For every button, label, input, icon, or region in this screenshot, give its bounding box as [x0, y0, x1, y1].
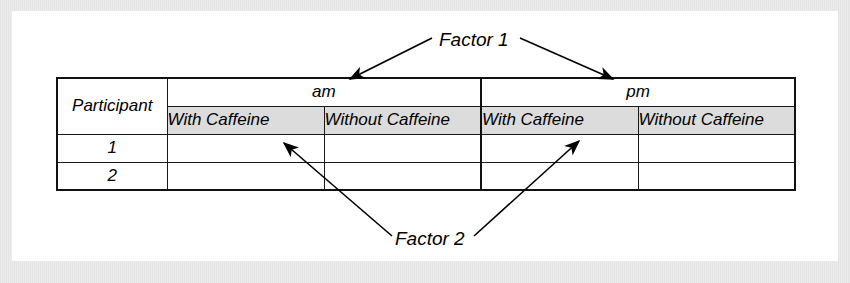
header-factor2-am-without-caffeine: Without Caffeine	[324, 106, 481, 134]
header-factor2-pm-with-caffeine: With Caffeine	[481, 106, 638, 134]
table-header-row-factor1: Participant am pm	[57, 78, 795, 106]
table-row: 2	[57, 162, 795, 190]
factor1-label: Factor 1	[439, 29, 509, 51]
table-header-row-factor2: With Caffeine Without Caffeine With Caff…	[57, 106, 795, 134]
participant-id: 1	[57, 134, 167, 162]
data-cell-p2-pm-with[interactable]	[481, 162, 638, 190]
figure-root: Participant am pm With Caffeine Without …	[0, 0, 850, 283]
header-factor2-am-with-caffeine: With Caffeine	[167, 106, 324, 134]
data-cell-p2-am-with[interactable]	[167, 162, 324, 190]
header-factor1-level-pm: pm	[481, 78, 795, 106]
data-cell-p2-am-without[interactable]	[324, 162, 481, 190]
participant-id: 2	[57, 162, 167, 190]
header-factor1-level-am: am	[167, 78, 481, 106]
data-cell-p2-pm-without[interactable]	[638, 162, 795, 190]
data-cell-p1-am-without[interactable]	[324, 134, 481, 162]
data-cell-p1-am-with[interactable]	[167, 134, 324, 162]
data-cell-p1-pm-without[interactable]	[638, 134, 795, 162]
header-factor2-pm-without-caffeine: Without Caffeine	[638, 106, 795, 134]
factorial-design-table: Participant am pm With Caffeine Without …	[56, 77, 796, 191]
data-cell-p1-pm-with[interactable]	[481, 134, 638, 162]
header-participant: Participant	[57, 78, 167, 134]
table-row: 1	[57, 134, 795, 162]
factor2-label: Factor 2	[395, 228, 465, 250]
